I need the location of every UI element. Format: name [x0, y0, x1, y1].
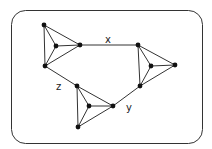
graph-node: [138, 84, 143, 89]
graph-node: [87, 104, 92, 109]
graph-node: [54, 44, 59, 49]
graph-node: [76, 125, 81, 130]
graph-node: [111, 104, 116, 109]
graph-node: [78, 43, 83, 48]
edge-label-y: y: [126, 102, 132, 113]
diagram-frame: [12, 11, 203, 144]
graph-node: [75, 84, 80, 89]
graph-node: [149, 64, 154, 69]
graph-node: [136, 43, 141, 48]
graph-diagram: x y z: [0, 0, 212, 149]
edge-label-x: x: [105, 34, 111, 45]
graph-node: [42, 23, 47, 28]
edge-label-z: z: [56, 81, 61, 92]
graph-node: [173, 63, 178, 68]
graph-node: [43, 64, 48, 69]
